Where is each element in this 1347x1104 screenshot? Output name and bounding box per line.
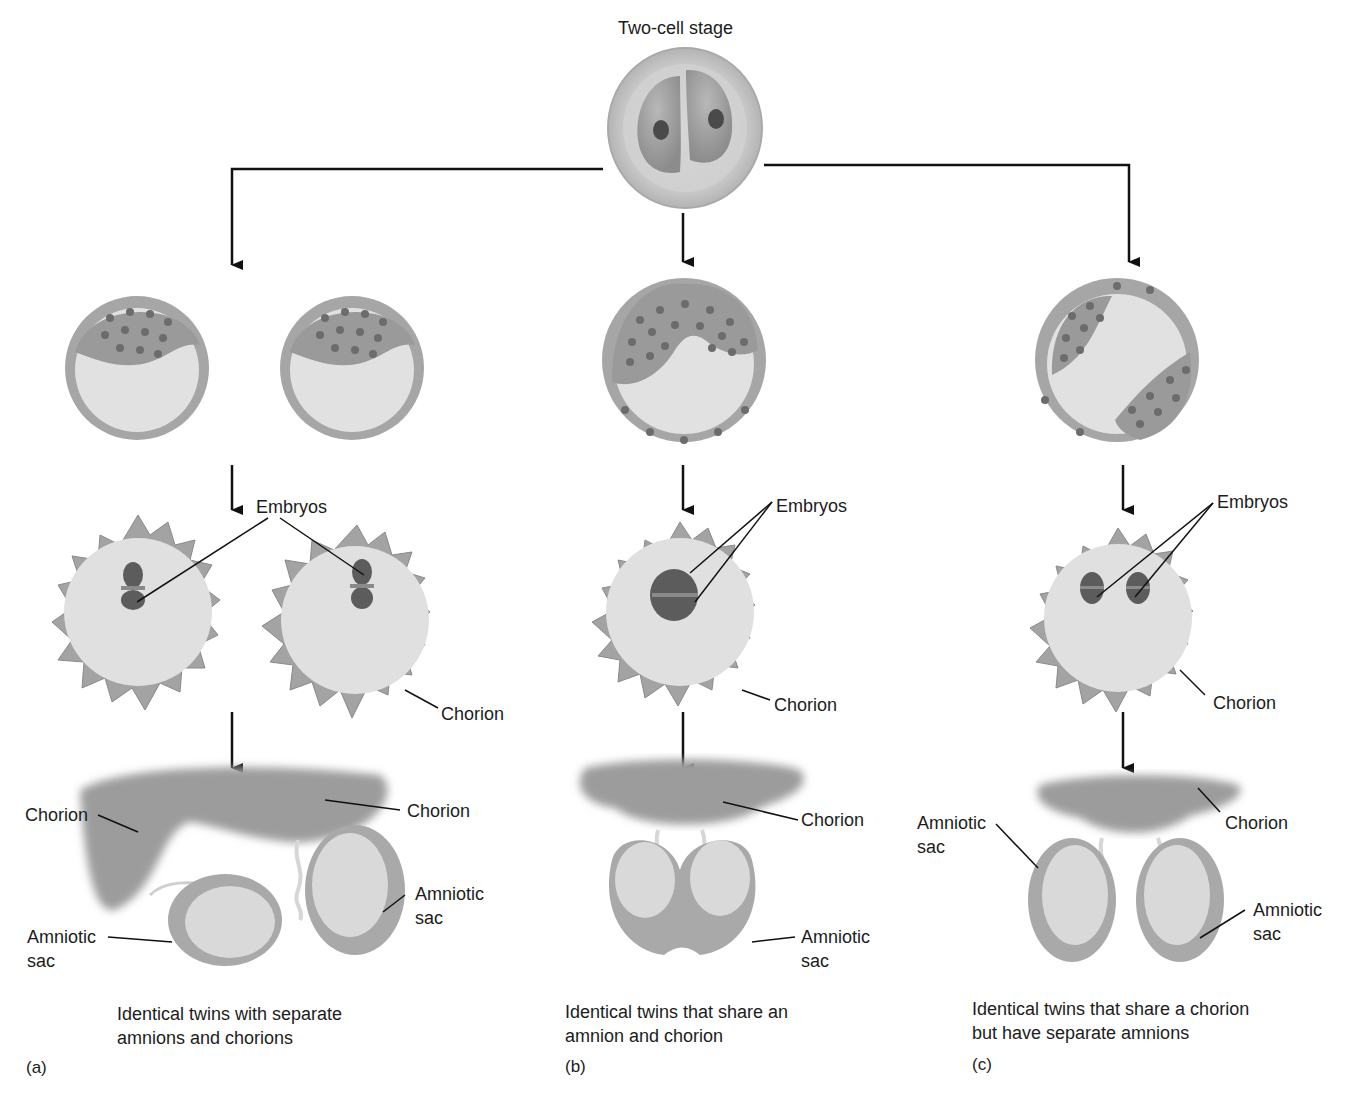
- caption-b-line1: Identical twins that share an: [565, 1000, 788, 1024]
- blastocyst-a-left: [65, 296, 209, 440]
- label-chorion-b-row3: Chorion: [774, 694, 837, 716]
- label-chorion-b-row4: Chorion: [801, 809, 864, 831]
- blastocyst-a-right: [280, 296, 424, 440]
- two-cell-stage-illustration: [608, 48, 762, 208]
- label-amniotic-c-left-2: sac: [917, 836, 945, 858]
- label-amniotic-c-left-1: Amniotic: [917, 812, 986, 834]
- caption-c-line2: but have separate amnions: [972, 1021, 1189, 1045]
- final-stage-b: [580, 760, 804, 955]
- two-cell-stage-title: Two-cell stage: [618, 17, 733, 39]
- final-stage-c: [1028, 775, 1241, 962]
- label-amniotic-a-right-2: sac: [415, 907, 443, 929]
- label-chorion-a-left: Chorion: [25, 804, 88, 826]
- blastocyst-b: [602, 278, 766, 444]
- label-amniotic-b-2: sac: [801, 950, 829, 972]
- label-amniotic-a-right-1: Amniotic: [415, 883, 484, 905]
- final-stage-a: [80, 767, 405, 966]
- panel-letter-b: (b): [565, 1057, 586, 1077]
- caption-a-line2: amnions and chorions: [117, 1026, 293, 1050]
- caption-c-line1: Identical twins that share a chorion: [972, 997, 1249, 1021]
- label-amniotic-b-1: Amniotic: [801, 926, 870, 948]
- label-embryos-b: Embryos: [776, 495, 847, 517]
- label-chorion-a-right: Chorion: [407, 800, 470, 822]
- blastocyst-c: [1035, 278, 1199, 442]
- twin-development-diagram: Two-cell stage Embryos Chorion Chorion C…: [0, 0, 1347, 1104]
- label-embryos-c: Embryos: [1217, 491, 1288, 513]
- panel-letter-c: (c): [972, 1055, 992, 1075]
- label-amniotic-c-right-1: Amniotic: [1253, 899, 1322, 921]
- label-chorion-c-row4: Chorion: [1225, 812, 1288, 834]
- label-amniotic-a-left-2: sac: [27, 950, 55, 972]
- label-chorion-c-row3: Chorion: [1213, 692, 1276, 714]
- caption-a-line1: Identical twins with separate: [117, 1002, 342, 1026]
- panel-letter-a: (a): [26, 1058, 47, 1078]
- label-amniotic-c-right-2: sac: [1253, 923, 1281, 945]
- label-chorion-a-row3: Chorion: [441, 703, 504, 725]
- label-embryos-a: Embryos: [256, 496, 327, 518]
- diagram-artwork: [0, 0, 1347, 1104]
- caption-b-line2: amnion and chorion: [565, 1024, 723, 1048]
- label-amniotic-a-left-1: Amniotic: [27, 926, 96, 948]
- row2-arrows: [232, 465, 1123, 510]
